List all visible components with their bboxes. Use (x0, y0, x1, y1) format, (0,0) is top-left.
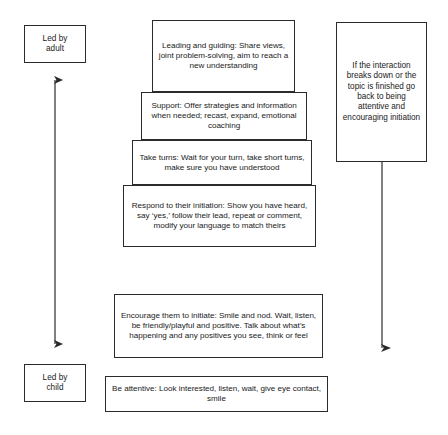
rung-leading-and-guiding-text: Leading and guiding: Share views, joint … (157, 41, 290, 71)
led-by-child-label: Led bychild (29, 373, 81, 393)
rung-be-attentive: Be attentive: Look interested, listen, w… (105, 376, 328, 412)
rung-be-attentive-text: Be attentive: Look interested, listen, w… (110, 384, 323, 404)
rung-leading-and-guiding: Leading and guiding: Share views, joint … (152, 20, 295, 92)
rung-encourage-them-to-initiate-text: Encourage them to initiate: Smile and no… (119, 311, 318, 341)
rung-take-turns: Take turns: Wait for your turn, take sho… (132, 140, 312, 185)
rung-take-turns-text: Take turns: Wait for your turn, take sho… (137, 153, 307, 173)
reset-guidance-panel: If the interaction breaks down or the to… (336, 22, 427, 162)
rung-support-text: Support: Offer strategies and informatio… (146, 101, 302, 131)
rung-respond-to-their-initiation-text: Respond to their initiation: Show you ha… (128, 201, 311, 231)
led-by-adult-box: Led byadult (24, 25, 86, 63)
reset-guidance-text: If the interaction breaks down or the to… (341, 61, 422, 123)
rung-support: Support: Offer strategies and informatio… (141, 92, 307, 140)
led-by-child-box: Led bychild (24, 364, 86, 402)
diagram-canvas: Led byadult Led bychild Leading and guid… (0, 0, 448, 435)
rung-respond-to-their-initiation: Respond to their initiation: Show you ha… (123, 185, 316, 247)
rung-encourage-them-to-initiate: Encourage them to initiate: Smile and no… (114, 294, 323, 358)
led-by-adult-label: Led byadult (29, 34, 81, 54)
